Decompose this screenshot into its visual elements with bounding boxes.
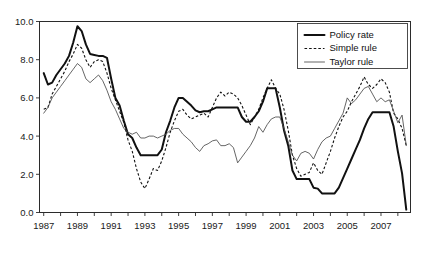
legend-label-taylor-rule: Taylor rule	[330, 56, 374, 67]
y-tick-label: 8.0	[20, 54, 33, 65]
legend-label-simple-rule: Simple rule	[330, 42, 378, 53]
x-tick-label: 2001	[269, 220, 290, 231]
x-tick-label: 2005	[337, 220, 358, 231]
chart-container: 0.02.04.06.08.010.0 19871989199119931995…	[0, 0, 427, 256]
x-tick-label: 1993	[134, 220, 155, 231]
x-tick-label: 1997	[202, 220, 223, 231]
y-tick-label: 2.0	[20, 169, 33, 180]
x-tick-label: 2007	[370, 220, 391, 231]
chart-legend: Policy rateSimple ruleTaylor rule	[298, 24, 408, 69]
x-tick-label: 1987	[33, 220, 54, 231]
line-chart: 0.02.04.06.08.010.0 19871989199119931995…	[0, 0, 427, 256]
x-tick-label: 1995	[168, 220, 189, 231]
legend-label-policy-rate: Policy rate	[330, 29, 374, 40]
y-tick-label: 6.0	[20, 92, 33, 103]
x-tick-label: 1999	[236, 220, 257, 231]
y-tick-label: 0.0	[20, 207, 33, 218]
y-axis-ticks: 0.02.04.06.08.010.0	[15, 16, 40, 218]
y-tick-label: 10.0	[15, 16, 34, 27]
x-tick-label: 1989	[67, 220, 88, 231]
x-tick-label: 1991	[101, 220, 122, 231]
y-tick-label: 4.0	[20, 131, 33, 142]
x-tick-label: 2003	[303, 220, 324, 231]
x-axis-ticks: 1987198919911993199519971999200120032005…	[33, 213, 398, 231]
